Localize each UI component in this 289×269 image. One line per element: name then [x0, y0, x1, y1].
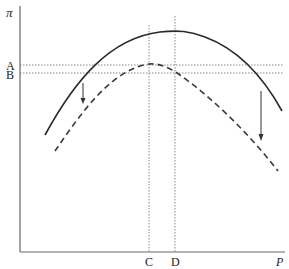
shift-arrow-left [81, 83, 86, 104]
shift-arrow-right [259, 91, 264, 141]
tick-label-c: C [145, 256, 153, 268]
x-axis-label: P [276, 256, 283, 268]
dashed-profit-curve [55, 64, 278, 171]
tick-label-d: D [171, 256, 180, 268]
y-axis-label: π [6, 6, 13, 19]
profit-diagram [0, 0, 289, 269]
tick-label-b: B [6, 69, 14, 81]
solid-profit-curve [45, 31, 282, 135]
